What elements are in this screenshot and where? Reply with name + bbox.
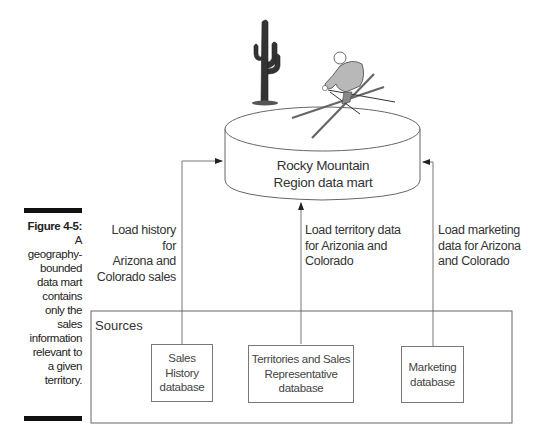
arrow-label-line: data for Arizona (438, 239, 521, 255)
data-mart-label-line1: Rocky Mountain (238, 157, 408, 174)
arrow-label-load-history: Load history for Arizona and Colorado sa… (96, 223, 176, 285)
database-label-line: Representative (252, 367, 351, 382)
database-label-line: database (160, 380, 205, 395)
territories-sales-rep-database: Territories and Sales Representative dat… (248, 345, 354, 403)
data-mart-label: Rocky Mountain Region data mart (238, 157, 408, 191)
arrow-label-line: Colorado sales (96, 270, 176, 286)
arrow-label-line: for Arizonia and (305, 239, 401, 255)
cactus-icon (252, 20, 280, 106)
arrow-label-line: Load marketing (438, 223, 521, 239)
database-label-line: database (252, 381, 351, 396)
arrow-load-marketing (423, 162, 433, 346)
database-label-line: Territories and Sales (252, 352, 351, 367)
arrow-load-history (182, 161, 222, 344)
sales-history-database: Sales History database (151, 344, 213, 402)
arrow-label-line: Colorado (305, 254, 401, 270)
arrow-label-load-marketing: Load marketing data for Arizona and Colo… (438, 223, 521, 270)
database-label-line: database (409, 375, 457, 390)
marketing-database: Marketing database (401, 346, 464, 403)
arrow-label-line: Load territory data (305, 223, 401, 239)
database-label-line: Sales (160, 351, 205, 366)
arrow-label-line: Arizona and (96, 254, 176, 270)
data-mart-label-line2: Region data mart (238, 174, 408, 191)
database-label-line: History (160, 366, 205, 381)
sources-title: Sources (95, 318, 143, 333)
arrow-label-line: Load history for (96, 223, 176, 254)
database-label-line: Marketing (409, 360, 457, 375)
arrow-label-line: and Colorado (438, 254, 521, 270)
arrow-label-load-territory: Load territory data for Arizonia and Col… (305, 223, 401, 270)
